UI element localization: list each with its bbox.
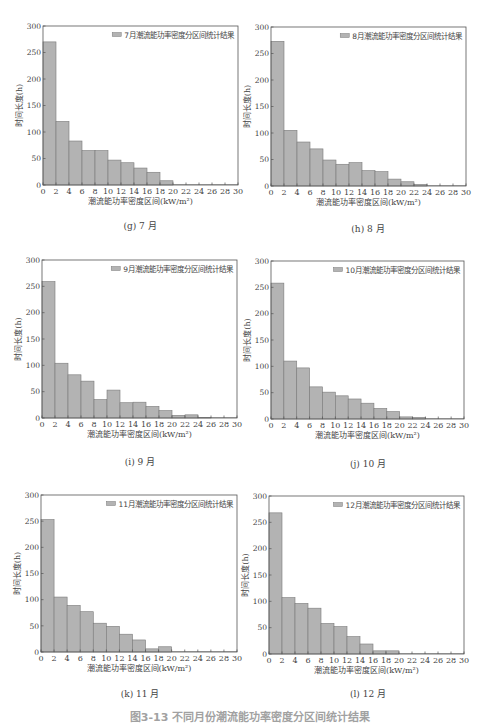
legend-swatch [333,503,342,507]
bar [373,651,386,654]
legend-label: 12月潮流能功率密度分区间统计结果 [345,500,461,510]
x-tick-label: 10 [329,656,339,665]
x-tick-label: 8 [318,656,323,665]
x-tick-label: 20 [394,656,404,665]
bar [295,603,308,654]
bar [308,608,321,654]
x-tick-label: 28 [446,656,456,665]
y-tick-label: 300 [253,492,268,501]
y-tick-label: 150 [253,571,268,580]
bar [360,644,373,654]
caption-l: (l) 12 月 [308,687,428,700]
y-tick-label: 200 [253,544,268,553]
x-axis-label: 潮流能功率密度区间(kW/m²) [314,665,419,675]
y-tick-label: 50 [257,623,267,632]
bar [386,651,399,654]
bar [347,637,360,654]
y-axis-label: 时间长度(h) [240,553,250,596]
x-tick-label: 6 [305,656,310,665]
x-tick-label: 14 [355,656,365,665]
chart-panel-l: 0246810121416182022242628300501001502002… [0,0,486,700]
chart-svg-l: 0246810121416182022242628300501001502002… [0,0,486,700]
x-tick-label: 24 [420,656,430,665]
bar [269,513,282,654]
bar [321,623,334,654]
y-tick-label: 100 [253,597,268,606]
bar [334,627,347,654]
x-tick-label: 2 [279,656,284,665]
x-tick-label: 12 [342,656,352,665]
x-tick-label: 18 [381,656,391,665]
legend: 12月潮流能功率密度分区间统计结果 [333,500,461,510]
bar [282,598,295,654]
x-tick-label: 16 [368,656,378,665]
x-tick-label: 4 [292,656,297,665]
x-tick-label: 26 [433,656,443,665]
y-tick-label: 0 [262,650,267,659]
figure-caption: 图3-13 不同月份潮流能功率密度分区间统计结果 [70,708,430,724]
x-tick-label: 30 [459,656,469,665]
y-tick-label: 250 [253,518,268,527]
x-tick-label: 22 [407,656,417,665]
x-tick-label: 0 [266,656,271,665]
